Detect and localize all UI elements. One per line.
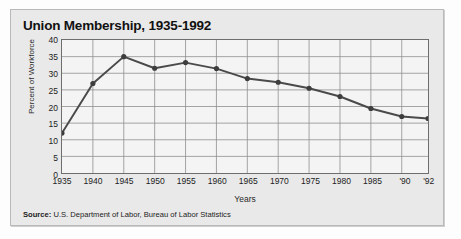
x-tick-label: 1955 <box>177 176 196 186</box>
y-tick-label: 5 <box>53 153 58 163</box>
y-axis-label: Percent of Workforce <box>27 17 36 137</box>
plot-area: 0510152025303540193519401945195019551960… <box>61 39 429 174</box>
y-tick-label: 35 <box>49 52 58 62</box>
x-tick-label: 1960 <box>208 176 227 186</box>
y-tick-label: 30 <box>49 69 58 79</box>
y-tick-label: 10 <box>49 136 58 146</box>
x-tick-label: 1940 <box>84 176 103 186</box>
x-tick-label: 1945 <box>115 176 134 186</box>
x-tick-label: 1965 <box>239 176 258 186</box>
y-tick-label: 40 <box>49 35 58 45</box>
source-prefix: Source: <box>23 210 51 219</box>
x-tick-label: 1980 <box>332 176 351 186</box>
y-tick-label: 20 <box>49 103 58 113</box>
chart-card: Union Membership, 1935-1992 Percent of W… <box>10 9 444 226</box>
x-tick-label: 1950 <box>146 176 165 186</box>
x-tick-label: '92 <box>423 176 434 186</box>
source-note: Source: U.S. Department of Labor, Bureau… <box>23 210 231 219</box>
page-title: Union Membership, 1935-1992 <box>23 18 211 33</box>
y-tick-label: 25 <box>49 86 58 96</box>
x-tick-label: 1985 <box>363 176 382 186</box>
x-axis-label: Years <box>61 194 429 204</box>
x-tick-label: 1970 <box>270 176 289 186</box>
source-text: U.S. Department of Labor, Bureau of Labo… <box>53 210 230 219</box>
y-tick-label: 15 <box>49 119 58 129</box>
figure: Union Membership, 1935-1992 Percent of W… <box>0 0 461 239</box>
x-tick-label: '90 <box>399 176 410 186</box>
x-tick-label: 1975 <box>301 176 320 186</box>
grid-and-series <box>62 40 428 173</box>
x-tick-label: 1935 <box>53 176 72 186</box>
